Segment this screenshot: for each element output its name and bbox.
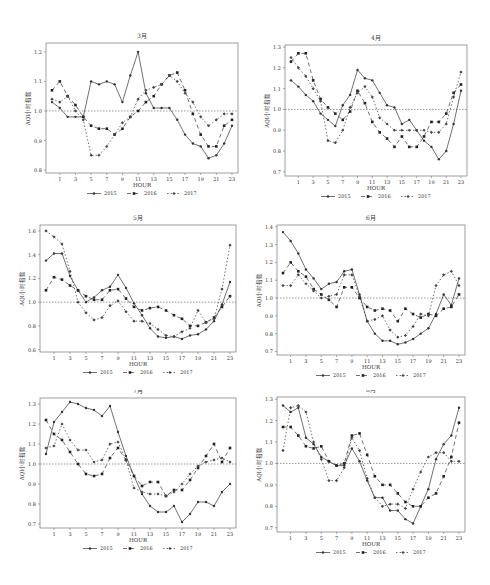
series-line-2015 bbox=[52, 52, 232, 158]
y-tick-label: 1.2 bbox=[34, 49, 42, 55]
x-tick-label: 21 bbox=[443, 179, 449, 185]
legend-label: 2016 bbox=[140, 369, 153, 375]
x-tick-label: 17 bbox=[413, 179, 419, 185]
series-line-2016 bbox=[52, 73, 232, 147]
y-tick-label: 1.2 bbox=[273, 65, 281, 71]
y-tick-label: 1.0 bbox=[28, 299, 36, 305]
chart-title: 3月 bbox=[137, 32, 147, 40]
x-tick-label: 9 bbox=[350, 358, 353, 364]
x-tick-label: 19 bbox=[425, 535, 431, 541]
plot-frame bbox=[40, 225, 236, 352]
y-tick-label: 1.2 bbox=[28, 421, 36, 427]
plot-frame bbox=[46, 43, 238, 173]
x-tick-label: 17 bbox=[179, 355, 185, 361]
chart-title: 8月 bbox=[366, 390, 376, 394]
x-tick-label: 21 bbox=[213, 176, 219, 182]
x-tick-label: 17 bbox=[182, 176, 188, 182]
x-tick-label: 15 bbox=[166, 176, 172, 182]
series-line-2015 bbox=[291, 70, 461, 159]
chart-panel-4: 6月0.70.80.91.01.11.21.31.413579111315171… bbox=[245, 200, 490, 400]
chart-panel-2: 4月0.70.80.91.01.11.21.313579111315171921… bbox=[245, 0, 490, 200]
x-tick-label: 3 bbox=[74, 176, 77, 182]
y-tick-label: 0.8 bbox=[273, 148, 281, 154]
series-line-2015 bbox=[46, 254, 230, 339]
legend-label: 2017 bbox=[418, 193, 431, 199]
y-tick-label: 0.7 bbox=[28, 521, 36, 527]
legend-label: 2017 bbox=[413, 549, 426, 555]
x-tick-label: 5 bbox=[90, 176, 93, 182]
legend-label: 2016 bbox=[144, 190, 157, 196]
x-tick-label: 9 bbox=[116, 531, 119, 537]
legend-label: 2017 bbox=[413, 372, 426, 378]
y-tick-label: 1.3 bbox=[28, 401, 36, 407]
y-tick-label: 1.1 bbox=[265, 439, 273, 445]
x-tick-label: 15 bbox=[395, 535, 401, 541]
y-axis-label: AQI小时指数 bbox=[255, 273, 263, 309]
x-tick-label: 23 bbox=[227, 531, 233, 537]
x-axis-label: HOUR bbox=[129, 361, 148, 367]
legend-label: 2015 bbox=[104, 190, 117, 196]
x-tick-label: 3 bbox=[68, 355, 71, 361]
x-tick-label: 9 bbox=[116, 355, 119, 361]
y-tick-label: 1.0 bbox=[28, 461, 36, 467]
x-tick-label: 1 bbox=[297, 179, 300, 185]
x-tick-label: 1 bbox=[289, 358, 292, 364]
y-tick-label: 0.9 bbox=[273, 127, 281, 133]
legend-label: 2015 bbox=[333, 372, 346, 378]
legend-label: 2017 bbox=[180, 545, 193, 551]
chart-panel-6: 8月0.70.80.91.01.11.21.313579111315171921… bbox=[245, 390, 490, 585]
legend-label: 2017 bbox=[180, 369, 193, 375]
x-tick-label: 15 bbox=[395, 358, 401, 364]
x-tick-label: 13 bbox=[379, 358, 385, 364]
x-tick-label: 15 bbox=[163, 355, 169, 361]
legend-label: 2015 bbox=[100, 369, 113, 375]
series-line-2017 bbox=[46, 231, 230, 337]
x-tick-label: 19 bbox=[195, 531, 201, 537]
y-tick-label: 0.7 bbox=[265, 348, 273, 354]
x-axis-label: HOUR bbox=[367, 185, 386, 191]
chart-panel-1: 3月0.80.91.01.11.21357911131517192123HOUR… bbox=[0, 0, 245, 200]
x-tick-label: 1 bbox=[58, 176, 61, 182]
y-tick-label: 0.9 bbox=[28, 481, 36, 487]
y-axis-label: AQI小时指数 bbox=[24, 91, 32, 127]
series-line-2017 bbox=[283, 406, 459, 509]
series-line-2017 bbox=[291, 58, 461, 143]
x-tick-label: 13 bbox=[379, 535, 385, 541]
y-tick-label: 0.8 bbox=[265, 331, 273, 337]
plot-frame bbox=[277, 397, 465, 532]
legend-label: 2015 bbox=[338, 193, 351, 199]
legend-label: 2015 bbox=[100, 545, 113, 551]
legend-label: 2017 bbox=[184, 190, 197, 196]
x-tick-label: 23 bbox=[227, 355, 233, 361]
x-tick-label: 9 bbox=[356, 179, 359, 185]
x-tick-label: 7 bbox=[100, 531, 103, 537]
y-tick-label: 0.9 bbox=[265, 482, 273, 488]
y-tick-label: 1.3 bbox=[265, 396, 273, 402]
x-axis-label: HOUR bbox=[362, 364, 381, 370]
chart-panel-3: 5月0.60.81.01.21.41.61357911131517192123H… bbox=[0, 200, 245, 400]
chart-title: 7月 bbox=[133, 390, 143, 395]
plot-frame bbox=[40, 398, 236, 528]
x-tick-label: 9 bbox=[350, 535, 353, 541]
x-tick-label: 21 bbox=[441, 358, 447, 364]
y-axis-label: AQI小时指数 bbox=[263, 93, 271, 129]
x-tick-label: 1 bbox=[52, 531, 55, 537]
y-tick-label: 0.8 bbox=[34, 167, 42, 173]
plot-frame bbox=[285, 45, 467, 176]
y-tick-label: 1.1 bbox=[34, 78, 42, 84]
chart-title: 4月 bbox=[371, 34, 381, 42]
x-tick-label: 19 bbox=[198, 176, 204, 182]
y-tick-label: 1.0 bbox=[265, 460, 273, 466]
y-tick-label: 1.3 bbox=[273, 44, 281, 50]
series-line-2016 bbox=[283, 423, 459, 507]
series-line-2016 bbox=[291, 53, 461, 147]
x-tick-label: 7 bbox=[341, 179, 344, 185]
x-tick-label: 5 bbox=[320, 358, 323, 364]
x-tick-label: 7 bbox=[100, 355, 103, 361]
x-tick-label: 17 bbox=[410, 358, 416, 364]
x-tick-label: 15 bbox=[399, 179, 405, 185]
x-tick-label: 5 bbox=[326, 179, 329, 185]
x-tick-label: 21 bbox=[211, 355, 217, 361]
x-tick-label: 7 bbox=[335, 358, 338, 364]
legend-label: 2016 bbox=[373, 372, 386, 378]
